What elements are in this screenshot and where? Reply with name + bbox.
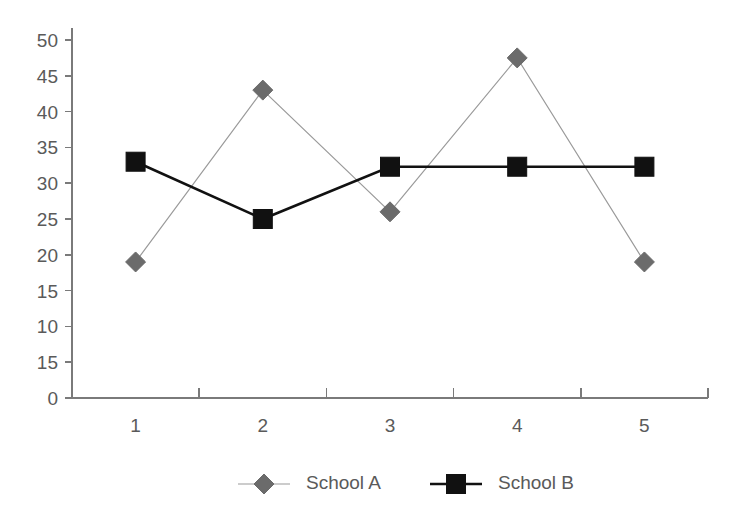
y-tick-label: 50 bbox=[37, 30, 58, 51]
x-tick-label: 3 bbox=[385, 415, 396, 436]
y-tick-label: 15 bbox=[37, 281, 58, 302]
data-point-marker bbox=[635, 157, 654, 176]
y-tick-label: 45 bbox=[37, 66, 58, 87]
data-point-marker bbox=[253, 210, 272, 229]
data-point-marker bbox=[126, 152, 145, 171]
legend-marker-square-icon bbox=[447, 475, 466, 494]
x-tick-label: 5 bbox=[639, 415, 650, 436]
y-tick-label: 25 bbox=[37, 209, 58, 230]
chart-canvas: 504540353025201510150 12345 School AScho… bbox=[0, 0, 751, 524]
x-tick-label: 1 bbox=[130, 415, 141, 436]
data-point-marker bbox=[508, 157, 527, 176]
legend-item-school-b[interactable]: School B bbox=[430, 472, 574, 493]
y-tick-label: 0 bbox=[47, 388, 58, 409]
line-chart: 504540353025201510150 12345 School AScho… bbox=[0, 0, 751, 524]
y-tick-label: 35 bbox=[37, 137, 58, 158]
x-tick-label: 4 bbox=[512, 415, 523, 436]
y-tick-label: 30 bbox=[37, 173, 58, 194]
y-tick-label: 10 bbox=[37, 316, 58, 337]
y-tick-label: 20 bbox=[37, 245, 58, 266]
legend-label: School A bbox=[306, 472, 381, 493]
x-tick-label: 2 bbox=[258, 415, 269, 436]
legend-label: School B bbox=[498, 472, 574, 493]
y-tick-label: 40 bbox=[37, 102, 58, 123]
y-tick-label: 15 bbox=[37, 352, 58, 373]
data-point-marker bbox=[381, 157, 400, 176]
